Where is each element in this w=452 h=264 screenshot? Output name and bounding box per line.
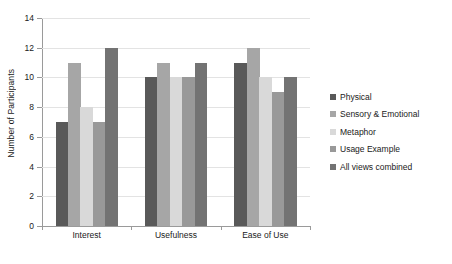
- y-tick-mark: [37, 48, 42, 49]
- y-tick-label: 10: [0, 73, 34, 82]
- bar-chart: Number of Participants 02468101214 Inter…: [0, 0, 452, 264]
- y-tick-label: 2: [0, 192, 34, 201]
- bar: [284, 77, 297, 226]
- y-tick-mark: [37, 137, 42, 138]
- bar: [56, 122, 69, 226]
- y-tick-mark: [37, 167, 42, 168]
- plot-area: [42, 18, 310, 226]
- x-tick-label: Usefulness: [155, 231, 197, 240]
- bar: [247, 48, 260, 226]
- bar: [145, 77, 158, 226]
- bar: [80, 107, 93, 226]
- legend-item: All views combined: [330, 158, 450, 176]
- y-tick-label: 0: [0, 222, 34, 231]
- y-tick-mark: [37, 77, 42, 78]
- legend-swatch-icon: [330, 146, 336, 152]
- legend-swatch-icon: [330, 164, 336, 170]
- x-tick-label: Interest: [72, 231, 100, 240]
- legend-swatch-icon: [330, 129, 336, 135]
- y-tick-label: 8: [0, 103, 34, 112]
- legend-label: All views combined: [340, 163, 412, 172]
- y-tick-label: 12: [0, 43, 34, 52]
- x-axis-tick-labels: InterestUsefulnessEase of Use: [42, 231, 310, 247]
- y-tick-mark: [37, 196, 42, 197]
- x-tick-mark: [221, 226, 222, 230]
- legend-swatch-icon: [330, 94, 336, 100]
- y-tick-label: 4: [0, 162, 34, 171]
- y-tick-mark: [37, 18, 42, 19]
- bars-layer: [42, 18, 310, 226]
- bar: [105, 48, 118, 226]
- y-tick-label: 14: [0, 14, 34, 23]
- y-tick-label: 6: [0, 133, 34, 142]
- bar: [234, 63, 247, 226]
- legend-item: Sensory & Emotional: [330, 106, 450, 124]
- bar: [157, 63, 170, 226]
- bar: [195, 63, 208, 226]
- bar: [93, 122, 106, 226]
- y-axis-tick-labels: 02468101214: [0, 18, 34, 226]
- bar: [170, 77, 183, 226]
- legend-item: Usage Example: [330, 141, 450, 159]
- bar: [182, 77, 195, 226]
- bar: [68, 63, 81, 226]
- legend-item: Metaphor: [330, 123, 450, 141]
- bar-group: [145, 18, 207, 226]
- legend-label: Metaphor: [340, 128, 376, 137]
- x-tick-label: Ease of Use: [242, 231, 288, 240]
- x-tick-mark: [310, 226, 311, 230]
- bar-group: [56, 18, 118, 226]
- x-tick-mark: [42, 226, 43, 230]
- legend-item: Physical: [330, 88, 450, 106]
- legend-label: Physical: [340, 93, 372, 102]
- gridline: [42, 226, 310, 227]
- bar-group: [234, 18, 296, 226]
- legend-swatch-icon: [330, 111, 336, 117]
- x-tick-mark: [131, 226, 132, 230]
- legend-label: Sensory & Emotional: [340, 110, 419, 119]
- legend-label: Usage Example: [340, 145, 400, 154]
- y-tick-mark: [37, 107, 42, 108]
- bar: [259, 77, 272, 226]
- bar: [272, 92, 285, 226]
- chart-legend: PhysicalSensory & EmotionalMetaphorUsage…: [330, 88, 450, 176]
